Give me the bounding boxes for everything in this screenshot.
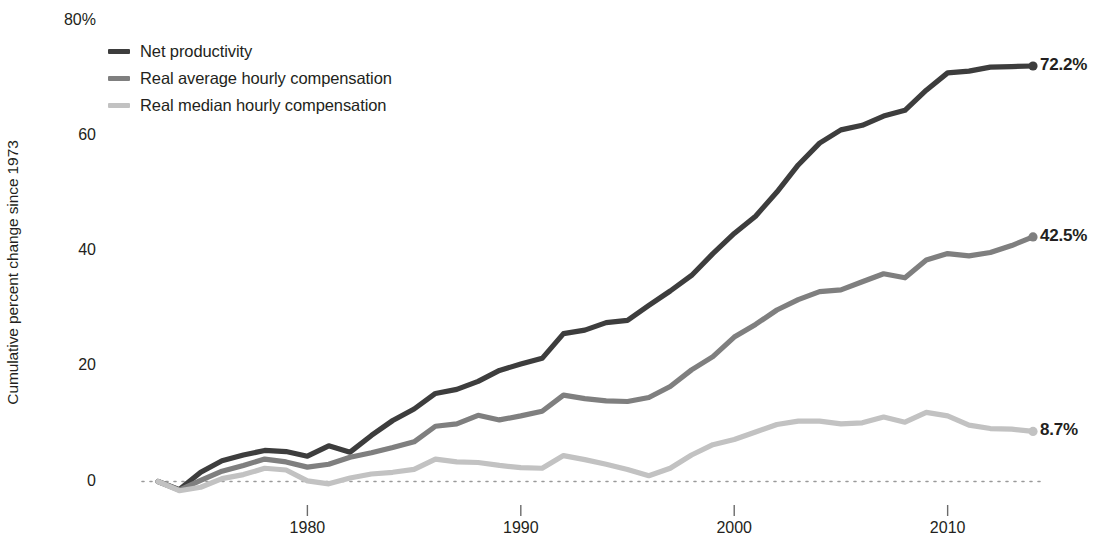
series-endpoint-dot <box>1028 232 1037 241</box>
series-endpoint-dots <box>1028 61 1037 436</box>
series-endpoint-dot <box>1028 427 1037 436</box>
series-endpoint-label: 72.2% <box>1040 55 1087 75</box>
x-axis-tick-marks <box>307 505 947 516</box>
legend-label: Real median hourly compensation <box>140 96 386 115</box>
legend-swatch-icon <box>108 49 130 54</box>
legend-label: Net productivity <box>140 42 252 61</box>
legend-swatch-icon <box>108 103 130 108</box>
data-series-group <box>158 66 1033 491</box>
legend-item[interactable]: Net productivity <box>108 38 392 65</box>
chart-legend: Net productivityReal average hourly comp… <box>108 38 392 119</box>
series-endpoint-label: 42.5% <box>1040 226 1087 246</box>
legend-item[interactable]: Real average hourly compensation <box>108 65 392 92</box>
productivity-pay-chart: Cumulative percent change since 1973 80%… <box>0 0 1101 545</box>
legend-label: Real average hourly compensation <box>140 69 392 88</box>
legend-swatch-icon <box>108 76 130 81</box>
series-endpoint-dot <box>1028 61 1037 70</box>
series-endpoint-label: 8.7% <box>1040 420 1078 440</box>
legend-item[interactable]: Real median hourly compensation <box>108 92 392 119</box>
